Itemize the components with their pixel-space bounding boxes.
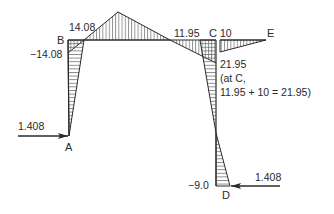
- value-d: −9.0: [188, 179, 209, 191]
- node-label-C: C: [209, 27, 217, 39]
- load-label-d: 1.408: [255, 171, 281, 183]
- column-ab-moment: [68, 40, 84, 136]
- node-label-E: E: [267, 27, 274, 39]
- value-c-beam: 11.95: [174, 27, 200, 39]
- cantilever-ce-moment: [220, 40, 266, 52]
- value-ce: 10: [220, 27, 232, 39]
- note-line-1: (at C,: [220, 72, 246, 84]
- note-line-2: 11.95 + 10 = 21.95): [220, 86, 311, 98]
- node-label-D: D: [222, 189, 230, 201]
- value-c-column: 21.95: [220, 58, 246, 70]
- value-b-beam: 14.08: [69, 21, 95, 33]
- node-label-A: A: [65, 141, 73, 153]
- value-b-column: −14.08: [30, 48, 63, 60]
- load-label-a: 1.408: [18, 120, 44, 132]
- node-label-B: B: [57, 34, 64, 46]
- moment-diagram: B A C D E 14.08 −14.08 11.95 10 21.95 (a…: [0, 0, 334, 214]
